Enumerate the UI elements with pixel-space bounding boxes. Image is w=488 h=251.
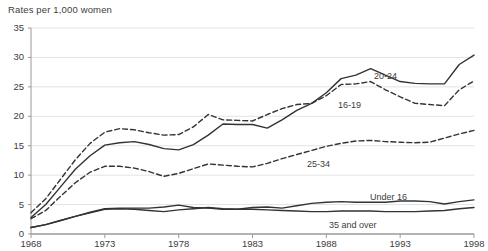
series-line-35-and-over xyxy=(31,208,474,228)
series-line-under-16 xyxy=(31,200,474,228)
series-label-16-19: 16-19 xyxy=(338,100,361,110)
y-tick-label-25: 25 xyxy=(4,81,24,92)
x-tick-label-1968: 1968 xyxy=(11,238,51,249)
y-tick-label-10: 10 xyxy=(4,169,24,180)
x-tick-label-1978: 1978 xyxy=(159,238,199,249)
series-label-25-34: 25-34 xyxy=(307,159,330,169)
series-line-25-34 xyxy=(31,130,474,218)
plot-area xyxy=(0,0,488,251)
line-chart: Rates per 1,000 women 05101520253035 196… xyxy=(0,0,488,251)
y-tick-label-20: 20 xyxy=(4,110,24,121)
series-label-under-16: Under 16 xyxy=(370,192,407,202)
x-tick-label-1998: 1998 xyxy=(454,238,488,249)
x-tick-label-1973: 1973 xyxy=(85,238,125,249)
x-tick-label-1988: 1988 xyxy=(306,238,346,249)
y-tick-label-35: 35 xyxy=(4,22,24,33)
series-line-16-19 xyxy=(31,81,474,213)
x-tick-label-1993: 1993 xyxy=(380,238,420,249)
series-label-20-24: 20-24 xyxy=(374,71,397,81)
series-line-20-24 xyxy=(31,55,474,217)
y-tick-label-15: 15 xyxy=(4,140,24,151)
y-tick-label-5: 5 xyxy=(4,199,24,210)
series-label-35-and-over: 35 and over xyxy=(329,220,377,230)
x-tick-label-1983: 1983 xyxy=(233,238,273,249)
y-tick-label-30: 30 xyxy=(4,51,24,62)
